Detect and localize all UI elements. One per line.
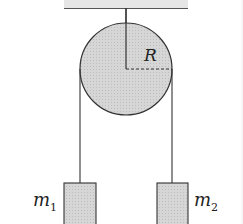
mass-block-2 bbox=[157, 183, 188, 224]
atwood-diagram: R m1 m2 bbox=[0, 0, 243, 224]
ceiling bbox=[64, 0, 188, 9]
mass-block-1 bbox=[64, 183, 96, 224]
radius-label: R bbox=[143, 45, 157, 65]
mass-label-2: m2 bbox=[194, 189, 218, 214]
mass-label-1: m1 bbox=[33, 189, 57, 214]
